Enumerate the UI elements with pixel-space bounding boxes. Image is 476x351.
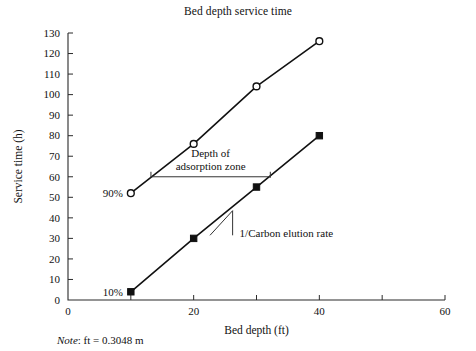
y-axis-tick-label: 120 — [44, 47, 61, 59]
axis-spines — [68, 33, 445, 300]
figure-note-text: : ft = 0.3048 m — [78, 334, 144, 346]
y-axis-tick-label: 70 — [49, 150, 61, 162]
y-axis-tick-label: 130 — [44, 27, 61, 39]
x-axis-title: Bed depth (ft) — [224, 324, 289, 337]
figure-note-prefix: Note — [57, 334, 78, 346]
x-axis-tick-label: 40 — [314, 305, 326, 317]
data-point-open-circle — [253, 83, 260, 90]
y-axis-tick-label: 60 — [49, 171, 61, 183]
data-point-open-circle — [127, 190, 134, 197]
y-axis-tick-label: 50 — [49, 191, 61, 203]
data-point-filled-square — [253, 184, 259, 190]
annotation-series-label-10: 10% — [103, 286, 123, 298]
data-point-open-circle — [316, 38, 323, 45]
x-axis-tick-label: 20 — [188, 305, 200, 317]
y-axis-tick-label: 80 — [49, 129, 61, 141]
x-axis-tick-label: 0 — [65, 305, 71, 317]
data-point-filled-square — [316, 132, 322, 138]
y-axis-tick-label: 30 — [49, 232, 61, 244]
y-axis-title: Service time (h) — [12, 129, 25, 203]
y-axis-tick-label: 0 — [55, 294, 61, 306]
y-axis-tick-label: 20 — [49, 253, 61, 265]
data-point-filled-square — [190, 235, 196, 241]
adsorption-zone-label-line1: Depth of — [191, 147, 230, 159]
figure-note: Note: ft = 0.3048 m — [57, 334, 144, 346]
data-point-filled-square — [128, 289, 134, 295]
annotations-layer: 90%10%Depth ofadsorption zone1/Carbon el… — [103, 147, 334, 298]
elution-rate-label: 1/Carbon elution rate — [240, 227, 334, 239]
y-axis-tick-label: 110 — [44, 68, 61, 80]
annotation-series-label-90: 90% — [103, 187, 123, 199]
y-axis-tick-label: 10 — [49, 273, 61, 285]
chart-figure: Bed depth service time 01020304050607080… — [0, 0, 476, 351]
x-axis-tick-label: 60 — [440, 305, 452, 317]
y-axis-tick-label: 100 — [44, 88, 61, 100]
y-axis-tick-label: 40 — [49, 212, 61, 224]
y-axis-tick-label: 90 — [49, 109, 61, 121]
adsorption-zone-label-line2: adsorption zone — [176, 160, 246, 172]
axes-layer: 01020304050607080901001101201300204060 — [44, 27, 452, 317]
chart-plot-area: 01020304050607080901001101201300204060 9… — [0, 0, 476, 351]
